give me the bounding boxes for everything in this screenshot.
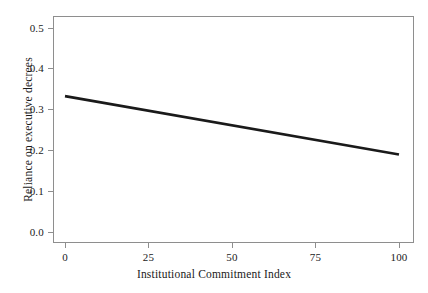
series-line-predicted-reliance (65, 96, 399, 154)
y-tick-mark (48, 150, 53, 151)
x-tick-label: 75 (310, 252, 321, 263)
x-tick-label: 25 (143, 252, 154, 263)
y-tick-mark (48, 28, 53, 29)
y-tick-mark (48, 232, 53, 233)
x-tick-mark (148, 243, 149, 248)
x-tick-mark (232, 243, 233, 248)
x-tick-label: 0 (62, 252, 68, 263)
chart-data-layer (53, 16, 414, 243)
chart-figure: 0.00.10.20.30.40.5 0255075100 Institutio… (0, 0, 428, 293)
x-tick-mark (315, 243, 316, 248)
x-axis-title: Institutional Commitment Index (0, 268, 428, 280)
x-tick-label: 50 (226, 252, 237, 263)
y-tick-mark (48, 191, 53, 192)
y-tick-mark (48, 68, 53, 69)
y-tick-mark (48, 109, 53, 110)
x-tick-mark (399, 243, 400, 248)
x-tick-mark (65, 243, 66, 248)
x-tick-label: 100 (390, 252, 407, 263)
y-axis-title: Reliance on executive decrees (22, 16, 38, 243)
